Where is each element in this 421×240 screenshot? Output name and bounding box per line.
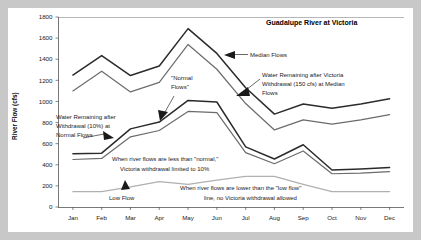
- annotation-withdrawal-ten-percent-line-2: Withdrawal (10%) at: [56, 123, 110, 129]
- chart-plot: 020040060080010001200140016001800 JanFeb…: [8, 8, 413, 232]
- annotation-withdrawal-ten-percent-line-3: Normal Flows: [56, 132, 93, 138]
- x-tick-label: Sep: [298, 214, 310, 221]
- annotation-normal-flows: "Normal Flows": [158, 75, 192, 121]
- chart-card: 020040060080010001200140016001800 JanFeb…: [8, 8, 413, 232]
- annotation-less-than-normal-line-2: Victoria withdrawal limited to 10%: [120, 166, 210, 172]
- annotation-lower-than-low-flow-line-1: When river flows are lower than the "low…: [180, 185, 301, 191]
- annotation-lower-than-low-flow-note: When river flows are lower than the "low…: [180, 185, 301, 201]
- y-tick-label: 400: [42, 161, 53, 168]
- x-tick-label: Apr: [154, 214, 164, 221]
- withdrawal-ten-percent-arrowhead: [103, 131, 114, 140]
- chart-title: Guadalupe River at Victoria: [266, 19, 357, 27]
- y-tick-label: 1600: [39, 34, 53, 41]
- annotation-victoria-withdrawal: Water Remaining after Victoria Withdrawa…: [236, 72, 345, 96]
- series-line-3: [73, 111, 390, 173]
- x-tick-label: Aug: [269, 214, 281, 221]
- annotation-low-flow: Low Flow: [109, 180, 135, 201]
- low-flow-arrowhead: [121, 180, 130, 190]
- annotation-median-flows-line-1: Median Flows: [250, 52, 287, 58]
- x-tick-label: Dec: [384, 214, 395, 221]
- annotation-less-than-normal-note: When river flows are less than "normal,"…: [112, 156, 218, 172]
- x-axis-ticks: JanFebMarAprMayJunJulAugSepOctNovDec: [68, 207, 395, 221]
- y-tick-label: 1200: [39, 77, 53, 84]
- y-tick-label: 200: [42, 182, 53, 189]
- y-tick-label: 800: [42, 119, 53, 126]
- y-tick-label: 1400: [39, 55, 53, 62]
- chart-axes: [58, 17, 404, 208]
- screenshot-root: 020040060080010001200140016001800 JanFeb…: [0, 0, 421, 240]
- x-tick-label: Jul: [242, 214, 250, 221]
- x-tick-label: Feb: [96, 214, 107, 221]
- annotation-withdrawal-ten-percent-line-1: Water Remaining after: [56, 114, 116, 120]
- x-tick-label: Nov: [355, 214, 367, 221]
- annotation-low-flow-label: Low Flow: [109, 195, 135, 201]
- y-tick-label: 0: [49, 203, 53, 210]
- annotation-normal-flows-line-1: "Normal: [171, 75, 192, 81]
- y-axis-ticks: 020040060080010001200140016001800: [39, 13, 59, 210]
- annotation-less-than-normal-line-1: When river flows are less than "normal,": [112, 156, 218, 162]
- x-tick-label: Jun: [212, 214, 223, 221]
- annotation-victoria-withdrawal-line-2: Withdrawal (150 cfs) at Median: [262, 81, 345, 87]
- x-tick-label: Oct: [327, 214, 337, 221]
- y-tick-label: 1000: [39, 98, 53, 105]
- annotation-withdrawal-ten-percent: Water Remaining after Withdrawal (10%) a…: [56, 114, 116, 140]
- y-axis-title: River Flow (cfs): [11, 92, 19, 140]
- median-flows-arrowhead: [224, 51, 235, 59]
- annotation-lower-than-low-flow-line-2: line, no Victoria withdrawal allowed: [204, 195, 297, 201]
- x-tick-label: Mar: [125, 214, 136, 221]
- x-tick-label: Jan: [68, 214, 79, 221]
- y-tick-label: 600: [42, 140, 53, 147]
- annotation-median-flows: Median Flows: [224, 51, 287, 59]
- annotation-victoria-withdrawal-line-3: Flows: [262, 90, 278, 96]
- x-tick-label: May: [182, 214, 195, 221]
- annotation-victoria-withdrawal-line-1: Water Remaining after Victoria: [262, 72, 344, 78]
- annotation-normal-flows-line-2: Flows": [171, 84, 189, 90]
- normal-flows-leader: [165, 96, 174, 112]
- y-tick-label: 1800: [39, 13, 53, 20]
- victoria-withdrawal-arrowhead: [236, 87, 250, 96]
